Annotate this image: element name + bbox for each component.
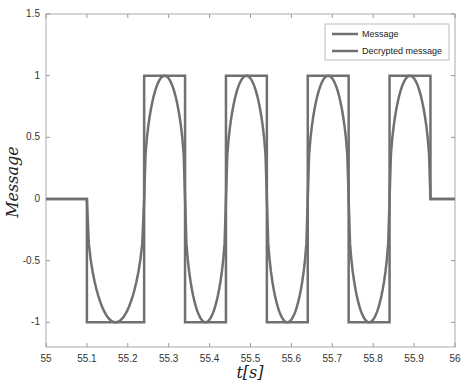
svg-text:56: 56 [449, 353, 461, 364]
svg-text:55: 55 [40, 353, 52, 364]
svg-text:-1: -1 [31, 316, 40, 327]
chart: 1.510.50-0.5-1 5555.155.255.355.455.555.… [0, 0, 467, 389]
svg-text:55.7: 55.7 [323, 353, 343, 364]
svg-text:55.4: 55.4 [200, 353, 220, 364]
svg-text:1.5: 1.5 [26, 8, 40, 19]
svg-text:55.9: 55.9 [404, 353, 424, 364]
svg-text:0.5: 0.5 [26, 131, 40, 142]
legend-item-decrypted: Decrypted message [362, 46, 442, 56]
svg-text:55.2: 55.2 [118, 353, 138, 364]
svg-text:55.1: 55.1 [77, 353, 97, 364]
svg-text:1: 1 [34, 70, 40, 81]
svg-text:55.6: 55.6 [282, 353, 302, 364]
x-axis-label: t[s] [236, 363, 264, 382]
y-axis-label: Message [3, 146, 22, 219]
legend: Message Decrypted message [325, 24, 449, 60]
plot-area [46, 14, 455, 347]
svg-text:-0.5: -0.5 [23, 255, 41, 266]
svg-text:0: 0 [34, 193, 40, 204]
svg-text:55.3: 55.3 [159, 353, 179, 364]
svg-text:55.8: 55.8 [363, 353, 383, 364]
legend-item-message: Message [362, 29, 399, 39]
